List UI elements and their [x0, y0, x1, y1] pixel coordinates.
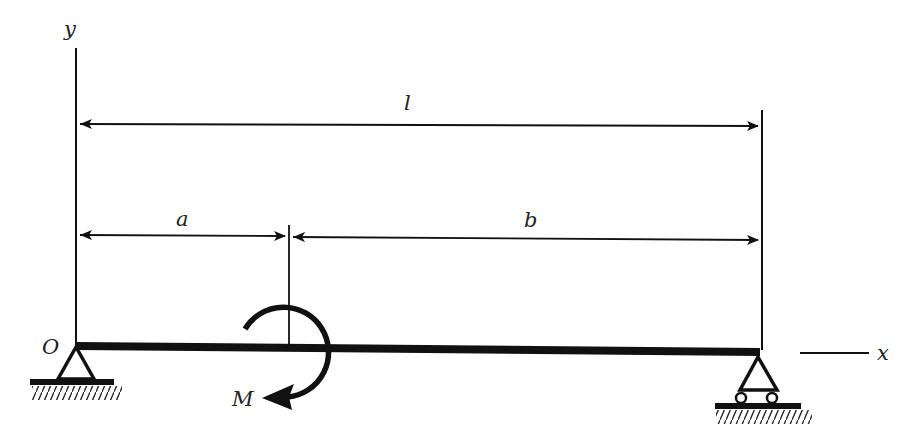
y-axis-label: y [63, 17, 77, 41]
moment-icon [245, 307, 329, 410]
moment-label: M [231, 387, 254, 411]
dimension-b [293, 237, 758, 240]
dimension-b-label: b [524, 208, 537, 232]
dimension-a [80, 235, 285, 236]
span-label: l [404, 91, 411, 115]
origin-label: O [42, 335, 59, 359]
span-dimension [80, 124, 758, 126]
beam-diagram: y l a b M O x [0, 0, 920, 443]
roller-support-icon [715, 357, 812, 424]
beam [76, 342, 760, 356]
dimension-a-label: a [176, 207, 189, 231]
x-axis-label: x [877, 341, 889, 365]
